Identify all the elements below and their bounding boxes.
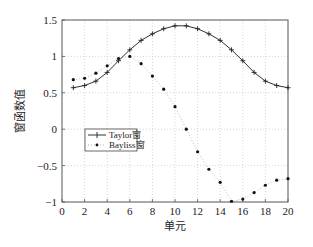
y-tick-labels: −1−0.500.511.5 — [37, 14, 65, 208]
taylor-plus-marker-icon — [274, 83, 279, 88]
bayliss-dot-marker-icon — [140, 62, 143, 65]
series-taylor — [71, 23, 291, 90]
bayliss-dot-marker-icon — [219, 181, 222, 184]
x-tick-label: 14 — [215, 205, 227, 217]
y-tick-label: −1 — [45, 196, 57, 208]
y-tick-label: 1.5 — [43, 14, 57, 26]
x-tick-label: 12 — [192, 205, 203, 217]
x-tick-label: 4 — [104, 205, 110, 217]
taylor-line — [73, 26, 288, 88]
legend: Taylor窗 Bayliss窗 — [85, 129, 145, 151]
x-tick-label: 6 — [127, 205, 133, 217]
bayliss-dot-marker-icon — [275, 179, 278, 182]
bayliss-dot-marker-icon — [83, 77, 86, 80]
taylor-plus-marker-icon — [82, 83, 87, 88]
x-tick-label: 2 — [82, 205, 88, 217]
x-tick-label: 20 — [283, 205, 295, 217]
taylor-plus-marker-icon — [195, 26, 200, 31]
taylor-plus-marker-icon — [71, 85, 76, 90]
y-tick-label: −0.5 — [37, 160, 57, 172]
bayliss-dot-marker-icon — [72, 78, 75, 81]
bayliss-dot-marker-icon — [173, 105, 176, 108]
x-tick-label: 10 — [170, 205, 182, 217]
y-tick-label: 0.5 — [43, 87, 57, 99]
y-axis-label: 窗函数值 — [13, 89, 27, 133]
bayliss-dot-marker-icon — [151, 74, 154, 77]
taylor-plus-marker-icon — [206, 31, 211, 36]
bayliss-dot-marker-icon — [162, 88, 165, 91]
bayliss-dot-marker-icon — [106, 64, 109, 67]
x-tick-label: 8 — [150, 205, 156, 217]
legend-bayliss-dot-icon — [96, 144, 99, 147]
taylor-plus-marker-icon — [286, 85, 291, 90]
line-chart: 02468101214161820 −1−0.500.511.5 单元 窗函数值… — [0, 0, 313, 247]
bayliss-dot-marker-icon — [185, 128, 188, 131]
taylor-plus-marker-icon — [150, 31, 155, 36]
bayliss-dot-marker-icon — [207, 168, 210, 171]
x-tick-label: 18 — [260, 205, 272, 217]
bayliss-dot-marker-icon — [230, 200, 233, 203]
taylor-plus-marker-icon — [161, 26, 166, 31]
bayliss-dot-marker-icon — [253, 191, 256, 194]
y-tick-label: 0 — [52, 123, 58, 135]
x-axis-label: 单元 — [164, 220, 186, 233]
grid — [62, 20, 288, 202]
taylor-plus-marker-icon — [173, 23, 178, 28]
bayliss-dot-marker-icon — [286, 177, 289, 180]
bayliss-dot-marker-icon — [241, 197, 244, 200]
legend-taylor-label: Taylor窗 — [109, 129, 141, 140]
bayliss-dot-marker-icon — [128, 55, 131, 58]
bayliss-dot-marker-icon — [94, 72, 97, 75]
x-tick-label: 16 — [237, 205, 249, 217]
bayliss-dot-marker-icon — [264, 184, 267, 187]
legend-bayliss-label: Bayliss窗 — [109, 139, 145, 150]
y-tick-label: 1 — [52, 50, 58, 62]
x-tick-label: 0 — [59, 205, 65, 217]
taylor-plus-marker-icon — [184, 23, 189, 28]
bayliss-dot-marker-icon — [196, 150, 199, 153]
